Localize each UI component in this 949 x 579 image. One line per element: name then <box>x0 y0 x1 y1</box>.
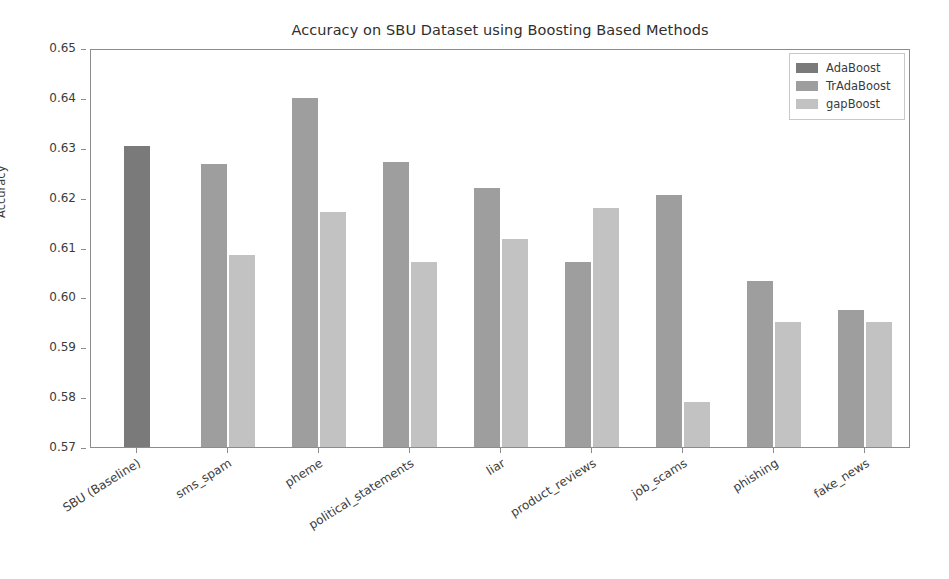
legend-item-tradaboost[interactable]: TrAdaBoost <box>796 77 898 95</box>
legend-swatch-tradaboost <box>796 81 818 91</box>
legend-swatch-adaboost <box>796 63 818 73</box>
bar-gapboost-sms-spam[interactable] <box>229 255 255 447</box>
y-tick-mark <box>81 99 86 100</box>
plot-area <box>90 49 910 448</box>
legend-label: TrAdaBoost <box>826 79 891 93</box>
bar-tradaboost-product-reviews[interactable] <box>565 262 591 447</box>
x-tick-mark <box>500 448 501 453</box>
x-tick-mark <box>682 448 683 453</box>
x-tick-label: sms_spam <box>34 456 234 579</box>
y-tick-mark <box>81 448 86 449</box>
y-tick-label: 0.59 <box>49 340 76 354</box>
bar-tradaboost-fake-news[interactable] <box>838 310 864 447</box>
bar-tradaboost-liar[interactable] <box>474 188 500 447</box>
y-tick-mark <box>81 348 86 349</box>
y-tick-label: 0.58 <box>49 390 76 404</box>
y-axis-label: Accuracy <box>0 165 8 218</box>
x-tick-mark <box>591 448 592 453</box>
x-tick-mark <box>864 448 865 453</box>
y-tick-label: 0.57 <box>49 440 76 454</box>
bar-gapboost-job-scams[interactable] <box>684 402 710 447</box>
bar-gapboost-phishing[interactable] <box>775 322 801 447</box>
x-tick-mark <box>409 448 410 453</box>
bar-gapboost-pheme[interactable] <box>320 212 346 447</box>
bar-tradaboost-pheme[interactable] <box>292 98 318 447</box>
legend-item-gapboost[interactable]: gapBoost <box>796 95 898 113</box>
bar-tradaboost-job-scams[interactable] <box>656 195 682 447</box>
y-tick-mark <box>81 298 86 299</box>
x-tick-mark <box>773 448 774 453</box>
y-tick-mark <box>81 149 86 150</box>
chart-title: Accuracy on SBU Dataset using Boosting B… <box>90 22 910 38</box>
bar-chart-figure: Accuracy on SBU Dataset using Boosting B… <box>0 0 949 579</box>
legend-label: AdaBoost <box>826 61 880 75</box>
y-tick-mark <box>81 249 86 250</box>
bar-tradaboost-political-statements[interactable] <box>383 162 409 447</box>
bar-tradaboost-phishing[interactable] <box>747 281 773 447</box>
y-tick-mark <box>81 199 86 200</box>
y-tick-label: 0.62 <box>49 191 76 205</box>
y-tick-label: 0.60 <box>49 290 76 304</box>
bar-gapboost-liar[interactable] <box>502 239 528 447</box>
y-tick-label: 0.61 <box>49 241 76 255</box>
bar-adaboost-sbu-baseline[interactable] <box>124 146 150 447</box>
x-tick-label: pheme <box>48 456 325 579</box>
bar-gapboost-political-statements[interactable] <box>411 262 437 447</box>
chart-legend: AdaBoostTrAdaBoostgapBoost <box>789 53 905 120</box>
y-tick-label: 0.65 <box>49 41 76 55</box>
legend-swatch-gapboost <box>796 99 818 109</box>
y-tick-label: 0.63 <box>49 141 76 155</box>
y-tick-mark <box>81 398 86 399</box>
legend-item-adaboost[interactable]: AdaBoost <box>796 59 898 77</box>
x-tick-mark <box>318 448 319 453</box>
legend-label: gapBoost <box>826 97 880 111</box>
bar-gapboost-fake-news[interactable] <box>866 322 892 447</box>
y-tick-mark <box>81 49 86 50</box>
y-tick-label: 0.64 <box>49 91 76 105</box>
bar-tradaboost-sms-spam[interactable] <box>201 164 227 447</box>
x-tick-mark <box>136 448 137 453</box>
x-tick-mark <box>227 448 228 453</box>
bar-gapboost-product-reviews[interactable] <box>593 208 619 447</box>
